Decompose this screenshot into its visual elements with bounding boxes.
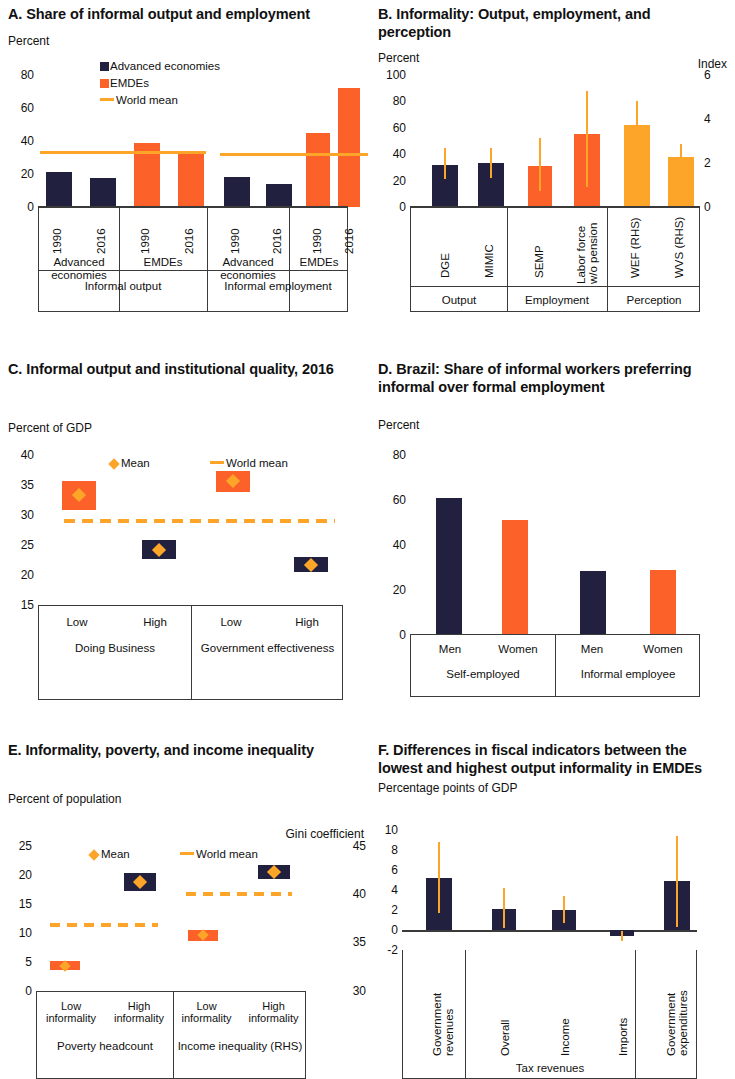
y-tick: 40	[21, 449, 38, 461]
panel-a-axis-box: 1990 2016 1990 2016 1990 2016 1990 2016 …	[38, 207, 348, 312]
panel-f-ylabel: Percentage points of GDP	[378, 781, 727, 795]
world-mean-dashed-line	[64, 519, 335, 523]
y-tick: 80	[393, 95, 410, 107]
panel-b: B. Informality: Output, employment, and …	[370, 0, 735, 355]
y-tick: 6	[391, 864, 402, 876]
bar-a-4	[178, 154, 204, 207]
y-tick: 0	[27, 201, 38, 213]
panel-d: D. Brazil: Share of informal workers pre…	[370, 355, 735, 720]
x-cat-label: Men	[559, 643, 625, 656]
x-cat-label: SEMP	[533, 212, 545, 278]
group-label: Doing Business	[39, 642, 191, 655]
y2-tick: 6	[700, 69, 711, 81]
world-mean-dashed-poverty	[50, 923, 158, 927]
x-cat-label: High informality	[240, 1000, 307, 1024]
y-tick: 20	[393, 175, 410, 187]
group-label: Informal employment	[207, 280, 349, 293]
y2-tick: 4	[700, 113, 711, 125]
x-cat-label: Women	[629, 643, 697, 656]
y-tick: 60	[393, 122, 410, 134]
y2-tick: 30	[349, 985, 366, 997]
errorbar-f-gov-exp	[676, 836, 678, 927]
mean-diamond-icon	[267, 865, 281, 879]
mean-diamond-icon	[59, 960, 70, 971]
world-mean-line-output	[40, 151, 206, 154]
panel-d-plot: 80 60 40 20 0	[410, 455, 700, 635]
y2-tick: 45	[349, 840, 366, 852]
panel-d-ylabel: Percent	[378, 418, 727, 432]
x-cat-label: Government revenues	[431, 956, 456, 1056]
y-tick: 100	[386, 69, 410, 81]
y-tick: 80	[393, 449, 410, 461]
y-tick: 20	[393, 584, 410, 596]
box-e-high-gini	[258, 865, 290, 879]
errorbar-b-mimic	[490, 148, 492, 178]
world-mean-line-employment	[220, 153, 368, 156]
subgroup-label: Advanced economies	[207, 256, 289, 281]
panel-e-title: E. Informality, poverty, and income ineq…	[8, 742, 362, 760]
y-tick: 4	[391, 884, 402, 896]
y-tick: 40	[393, 148, 410, 160]
y-tick: 30	[21, 509, 38, 521]
errorbar-b-dge	[444, 148, 446, 180]
bar-a-1	[46, 172, 72, 207]
x-cat-label: Women	[483, 643, 553, 656]
panel-e: E. Informality, poverty, and income ineq…	[0, 720, 370, 1079]
x-cat-label: MIMIC	[483, 212, 495, 278]
errorbar-b-semp	[539, 138, 541, 191]
panel-e-plot: 25 20 15 10 5 0 45 40 35 30	[36, 846, 306, 991]
group-label: Poverty headcount	[37, 1040, 173, 1053]
panel-b-title: B. Informality: Output, employment, and …	[378, 6, 727, 41]
panel-c-axis-box: Low High Low High Doing Business Governm…	[38, 605, 343, 700]
y-tick: 5	[25, 956, 36, 968]
group-label: Income inequality (RHS)	[173, 1040, 307, 1053]
errorbar-f-imports	[621, 931, 623, 941]
x-cat-label: 1990	[139, 212, 151, 254]
bar-d-se-women	[502, 520, 528, 635]
bar-d-ie-women	[650, 570, 676, 635]
y-tick: 0	[25, 985, 36, 997]
x-cat-label: Labor force w/o pension	[575, 212, 600, 284]
figure-grid: A. Share of informal output and employme…	[0, 0, 735, 1079]
group-label: Informal employee	[555, 668, 701, 681]
bar-a-2	[90, 178, 116, 207]
bar-a-6	[266, 184, 292, 207]
mean-diamond-icon	[72, 488, 86, 502]
group-label: Output	[411, 294, 507, 307]
panel-a-ylabel: Percent	[8, 34, 362, 48]
subgroup-label: EMDEs	[289, 256, 349, 269]
mean-diamond-icon	[226, 474, 240, 488]
x-cat-label: Low	[201, 616, 261, 629]
bar-a-8	[338, 88, 360, 207]
legend-label-advanced: Advanced economies	[110, 60, 220, 72]
box-e-low-poverty	[50, 961, 80, 970]
x-cat-label: Low informality	[37, 1000, 105, 1024]
group-label: Self-employed	[411, 668, 555, 681]
y-tick: 25	[21, 539, 38, 551]
bar-a-7	[306, 133, 330, 207]
x-cat-label: Low	[47, 616, 107, 629]
bar-d-se-men	[436, 498, 462, 635]
y-tick: 20	[21, 569, 38, 581]
panel-f-plot: 10 8 6 4 2 0 -2	[402, 830, 697, 950]
errorbar-f-income	[563, 896, 565, 923]
panel-a-legend-navy: Advanced economies	[100, 60, 220, 72]
y-tick: 0	[399, 201, 410, 213]
y-tick: 40	[21, 135, 38, 147]
y-tick: -2	[387, 944, 402, 956]
x-cat-label: Imports	[617, 956, 629, 1056]
y2-tick: 40	[349, 888, 366, 900]
y-tick: 25	[19, 840, 36, 852]
y-tick: 20	[21, 168, 38, 180]
y-tick: 60	[21, 102, 38, 114]
group-label: Perception	[607, 294, 701, 307]
group-label: Tax revenues	[465, 1062, 635, 1075]
mean-diamond-icon	[304, 557, 318, 571]
errorbar-b-wvs	[680, 144, 682, 170]
x-cat-label: Low informality	[173, 1000, 240, 1024]
panel-d-title: D. Brazil: Share of informal workers pre…	[378, 361, 727, 396]
world-mean-dashed-gini	[186, 892, 292, 896]
x-cat-label: 1990	[229, 212, 241, 254]
y2-tick: 35	[349, 936, 366, 948]
x-cat-label: 2016	[183, 212, 195, 254]
